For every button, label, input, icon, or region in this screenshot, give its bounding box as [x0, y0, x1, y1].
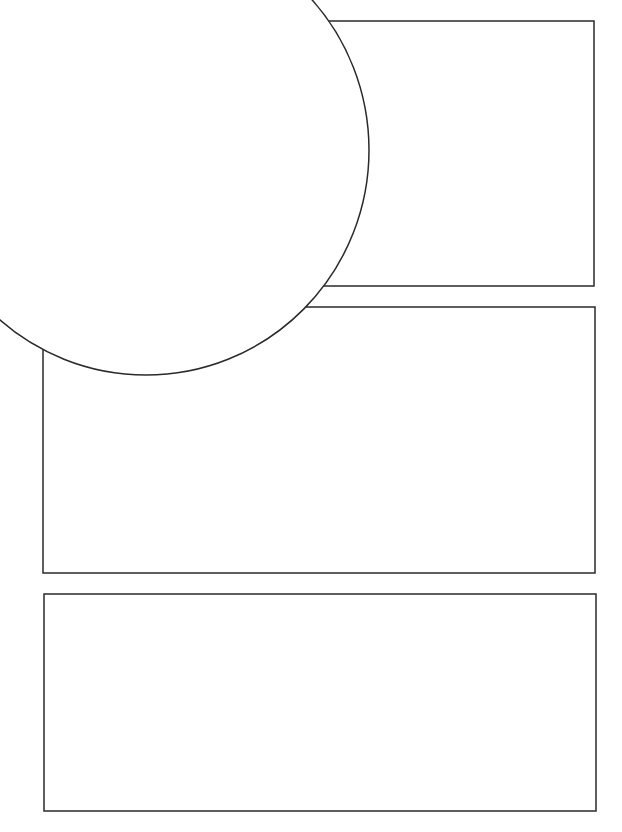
comic-page [0, 0, 622, 832]
panel-3[interactable] [44, 594, 596, 811]
panel-layout [0, 0, 622, 832]
